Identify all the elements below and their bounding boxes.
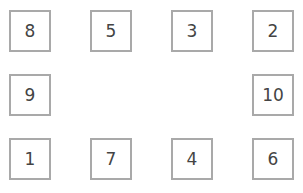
number-box-2[interactable]: 2	[252, 10, 294, 52]
number-box-10[interactable]: 10	[252, 74, 294, 116]
number-box-4[interactable]: 4	[171, 138, 213, 180]
number-box-5[interactable]: 5	[90, 10, 132, 52]
number-box-8[interactable]: 8	[9, 10, 51, 52]
number-box-7[interactable]: 7	[90, 138, 132, 180]
number-box-6[interactable]: 6	[252, 138, 294, 180]
number-box-9[interactable]: 9	[9, 74, 51, 116]
number-box-3[interactable]: 3	[171, 10, 213, 52]
number-box-1[interactable]: 1	[9, 138, 51, 180]
